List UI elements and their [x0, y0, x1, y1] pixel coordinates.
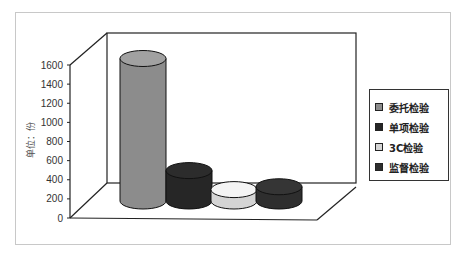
- y-tick-label: 1600: [41, 60, 64, 71]
- bar-1: [120, 51, 166, 210]
- legend-label: 委托检验: [389, 100, 429, 115]
- bar-top: [166, 163, 212, 179]
- legend-label: 监督检验: [389, 160, 429, 175]
- legend-swatch: [375, 103, 383, 111]
- legend-item: 监督检验: [375, 160, 429, 174]
- legend-item: 单项检验: [375, 120, 429, 134]
- legend-swatch: [375, 163, 383, 171]
- legend-label: 单项检验: [389, 120, 429, 135]
- y-tick-label: 1400: [41, 79, 64, 90]
- y-tick-label: 600: [46, 155, 63, 166]
- floor-right-edge: [317, 187, 356, 220]
- y-tick-label: 800: [46, 136, 63, 147]
- bar-top: [120, 51, 166, 67]
- y-tick-label: 1000: [41, 117, 64, 128]
- y-tick-label: 0: [57, 213, 63, 224]
- legend-swatch: [375, 143, 383, 151]
- legend-item: 3C检验: [375, 140, 423, 154]
- floor-front-edge: [70, 218, 317, 220]
- bar-top: [211, 182, 257, 198]
- y-tick-label: 1200: [41, 98, 64, 109]
- y-axis-label: 单位：份: [25, 122, 36, 158]
- y-tick-label: 200: [46, 193, 63, 204]
- bar-2: [166, 163, 212, 209]
- bar-body: [120, 59, 166, 210]
- side-wall-top-edge: [70, 33, 107, 65]
- legend-label: 3C检验: [389, 140, 423, 155]
- bar-3: [211, 182, 257, 209]
- legend-item: 委托检验: [375, 100, 429, 114]
- floor-left-edge: [70, 183, 107, 218]
- bar-top: [256, 179, 302, 195]
- y-tick-label: 400: [46, 174, 63, 185]
- bar-4: [256, 179, 302, 209]
- legend: 委托检验单项检验3C检验监督检验: [369, 89, 449, 181]
- legend-swatch: [375, 123, 383, 131]
- y-axis-ticks: 02004006008001000120014001600: [41, 60, 70, 224]
